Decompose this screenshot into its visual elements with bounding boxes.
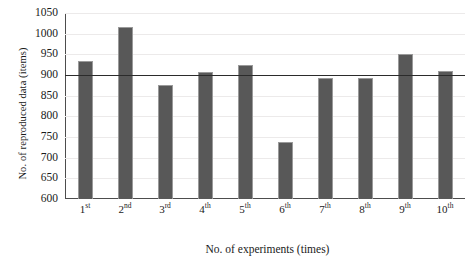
bar (158, 85, 173, 199)
bar-series (65, 13, 465, 199)
y-axis-tick-labels: 60065070075080085090095010001050 (0, 13, 62, 199)
y-tick-label: 750 (2, 131, 58, 143)
x-tick-label: 2nd (105, 202, 145, 220)
bar (238, 65, 253, 199)
bar (438, 71, 453, 199)
x-axis-tick-labels: 1st2nd3rd4th5th6th7th8th9th10th (65, 202, 465, 220)
x-tick-label: 9th (385, 202, 425, 220)
bar-slot (105, 13, 145, 199)
bar-slot (145, 13, 185, 199)
bar (318, 78, 333, 199)
bar (198, 72, 213, 199)
y-tick-label: 1000 (2, 28, 58, 40)
bar-slot (225, 13, 265, 199)
bar-chart: No. of reproduced data (items) 600650700… (0, 0, 470, 272)
bar (118, 27, 133, 199)
plot-area (65, 13, 465, 199)
bar (358, 78, 373, 199)
bar (278, 142, 293, 199)
x-tick-label: 10th (425, 202, 465, 220)
x-tick-label: 5th (225, 202, 265, 220)
x-tick-label: 6th (265, 202, 305, 220)
x-tick-label: 1st (65, 202, 105, 220)
x-tick-label: 3rd (145, 202, 185, 220)
y-tick-label: 700 (2, 152, 58, 164)
y-tick-label: 900 (2, 69, 58, 81)
y-tick-label: 650 (2, 173, 58, 185)
x-tick-label: 4th (185, 202, 225, 220)
bar-slot (385, 13, 425, 199)
y-tick-label: 800 (2, 111, 58, 123)
bar-slot (425, 13, 465, 199)
bar-slot (345, 13, 385, 199)
y-tick-label: 1050 (2, 7, 58, 19)
y-tick-label: 850 (2, 90, 58, 102)
bar-slot (185, 13, 225, 199)
bar-slot (305, 13, 345, 199)
reference-line (65, 75, 465, 76)
y-tick-label: 950 (2, 49, 58, 61)
y-tick-label: 600 (2, 193, 58, 205)
bar-slot (265, 13, 305, 199)
bar-slot (65, 13, 105, 199)
bar (78, 61, 93, 199)
x-tick-label: 8th (345, 202, 385, 220)
x-axis-title: No. of experiments (times) (65, 243, 470, 255)
x-tick-label: 7th (305, 202, 345, 220)
